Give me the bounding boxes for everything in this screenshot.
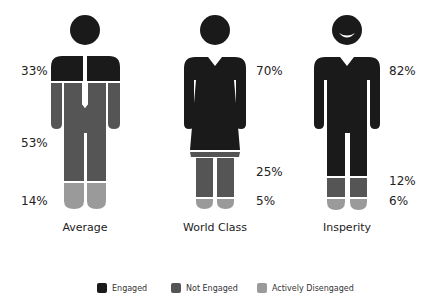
average-actively-disengaged-value: 14% [21, 194, 48, 208]
world-class-actively-disengaged-value: 5% [256, 194, 275, 208]
world-class-engaged-value: 70% [256, 64, 283, 78]
average-engaged-value: 33% [21, 64, 48, 78]
engagement-figures [0, 0, 431, 250]
figure-world-class [184, 15, 246, 209]
insperity-actively-disengaged-value: 6% [389, 194, 408, 208]
legend-label: Not Engaged [186, 284, 238, 293]
figure-average [51, 15, 120, 209]
insperity-engaged-value: 82% [389, 64, 416, 78]
smiley-head-icon [332, 15, 362, 45]
legend-item-actively-disengaged: Actively Disengaged [257, 283, 354, 293]
engaged-swatch-icon [97, 283, 107, 293]
insperity-caption: Insperity [297, 221, 397, 235]
figure-insperity [314, 15, 380, 210]
legend-item-engaged: Engaged [97, 283, 147, 293]
not-engaged-swatch-icon [171, 283, 181, 293]
legend: Engaged Not Engaged Actively Disengaged [0, 283, 431, 297]
average-caption: Average [35, 221, 135, 235]
legend-label: Engaged [112, 284, 147, 293]
head-icon [70, 15, 100, 45]
world-class-not-engaged-value: 25% [256, 165, 283, 179]
legend-label: Actively Disengaged [272, 284, 354, 293]
actively-disengaged-swatch-icon [257, 283, 267, 293]
head-icon [200, 15, 230, 45]
insperity-not-engaged-value: 12% [389, 174, 416, 188]
legend-item-not-engaged: Not Engaged [171, 283, 238, 293]
world-class-caption: World Class [165, 221, 265, 235]
average-not-engaged-value: 53% [21, 136, 48, 150]
